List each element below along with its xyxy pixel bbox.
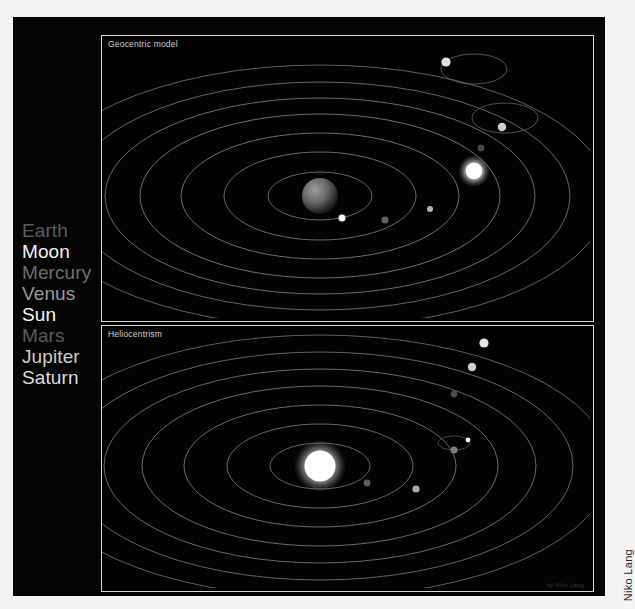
heliocentric-diagram — [102, 326, 590, 588]
body-saturn — [479, 338, 488, 347]
panel-title-geocentric: Geocentric model — [108, 39, 178, 49]
side-attribution: Niko Lang — [622, 549, 634, 601]
illustration-plate: Earth Moon Mercury Venus Sun Mars Jupite… — [13, 17, 605, 596]
body-mercury — [381, 216, 388, 223]
geocentric-diagram — [102, 36, 590, 318]
body-saturn — [441, 57, 450, 66]
figure-root: Earth Moon Mercury Venus Sun Mars Jupite… — [0, 0, 635, 609]
body-jupiter — [498, 123, 506, 131]
heliocentric-backdrop — [102, 326, 590, 588]
body-earth — [302, 178, 338, 214]
panel-heliocentrism: Heliocentrism by Niko Lang — [101, 325, 594, 592]
inline-credit: by Niko Lang — [547, 582, 584, 588]
body-earth — [450, 446, 457, 453]
body-mars — [451, 391, 458, 398]
geocentric-backdrop — [102, 36, 590, 318]
body-venus — [427, 206, 433, 212]
panel-geocentric-model: Geocentric model — [101, 35, 594, 322]
body-jupiter — [468, 363, 476, 371]
body-sun — [305, 451, 336, 482]
bottom-caption-sliver — [0, 598, 635, 609]
body-moon — [466, 438, 471, 443]
body-mars — [478, 145, 485, 152]
body-moon — [339, 215, 345, 221]
body-venus — [412, 485, 419, 492]
body-mercury — [364, 480, 371, 487]
panel-title-heliocentric: Heliocentrism — [108, 329, 162, 339]
body-sun — [466, 163, 482, 179]
